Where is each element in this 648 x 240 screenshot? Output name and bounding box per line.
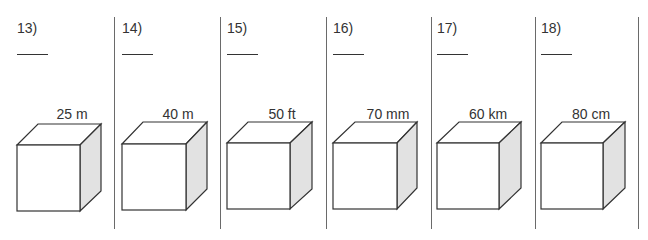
answer-blank[interactable]: [333, 54, 364, 55]
cube-diagram: [118, 120, 210, 216]
problem-17: 17) 60 km: [437, 0, 541, 240]
problem-number: 13): [17, 20, 37, 36]
problem-14: 14) 40 m: [122, 0, 226, 240]
problem-16: 16) 70 mm: [333, 0, 437, 240]
cube-diagram: [433, 120, 525, 216]
problem-number: 18): [541, 20, 561, 36]
cube-diagram: [13, 120, 105, 216]
problem-13: 13) 25 m: [17, 0, 121, 240]
problem-number: 17): [437, 20, 457, 36]
cube-diagram: [329, 120, 421, 216]
problem-number: 15): [227, 20, 247, 36]
problem-number: 14): [122, 20, 142, 36]
answer-blank[interactable]: [122, 54, 153, 55]
problem-18: 18) 80 cm: [541, 0, 645, 240]
answer-blank[interactable]: [541, 54, 572, 55]
problem-15: 15) 50 ft: [227, 0, 331, 240]
problem-number: 16): [333, 20, 353, 36]
answer-blank[interactable]: [437, 54, 468, 55]
answer-blank[interactable]: [227, 54, 258, 55]
answer-blank[interactable]: [17, 54, 48, 55]
cube-diagram: [223, 120, 315, 216]
cube-diagram: [537, 120, 629, 216]
